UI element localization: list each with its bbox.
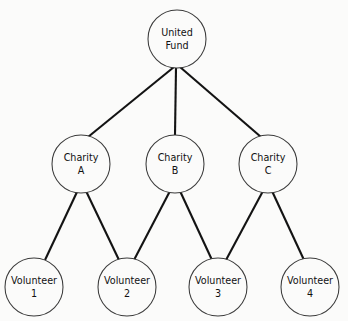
edge-charity-a-volunteer-2 xyxy=(86,191,119,260)
node-volunteer-3[interactable]: Volunteer3 xyxy=(189,258,247,316)
node-label-line1-united-fund: United xyxy=(161,27,193,38)
node-volunteer-2[interactable]: Volunteer2 xyxy=(98,258,156,316)
node-label-line2-volunteer-2: 2 xyxy=(124,288,130,299)
node-circle-united-fund xyxy=(148,10,206,68)
edge-united-fund-charity-c xyxy=(180,67,261,137)
node-label-line1-volunteer-3: Volunteer xyxy=(195,275,241,286)
node-label-line1-volunteer-2: Volunteer xyxy=(104,275,150,286)
node-volunteer-1[interactable]: Volunteer1 xyxy=(5,258,63,316)
node-label-line1-charity-a: Charity xyxy=(64,152,99,163)
node-label-line2-charity-c: C xyxy=(265,165,272,176)
node-circle-charity-c xyxy=(239,135,297,193)
node-charity-c[interactable]: CharityC xyxy=(239,135,297,193)
node-charity-a[interactable]: CharityA xyxy=(52,135,110,193)
node-united-fund[interactable]: UnitedFund xyxy=(148,10,206,68)
diagram-canvas: UnitedFundCharityACharityBCharityCVolunt… xyxy=(0,0,348,321)
node-label-line2-volunteer-1: 1 xyxy=(31,288,37,299)
node-circle-charity-b xyxy=(146,135,204,193)
node-label-line1-charity-c: Charity xyxy=(251,152,286,163)
node-label-line2-united-fund: Fund xyxy=(165,40,188,51)
node-circle-volunteer-2 xyxy=(98,258,156,316)
edge-charity-c-volunteer-3 xyxy=(226,191,263,260)
node-circle-volunteer-1 xyxy=(5,258,63,316)
edge-charity-a-volunteer-1 xyxy=(45,192,77,260)
node-circle-volunteer-4 xyxy=(281,258,339,316)
node-label-line2-volunteer-3: 3 xyxy=(215,288,221,299)
node-circle-charity-a xyxy=(52,135,110,193)
node-label-line1-charity-b: Charity xyxy=(158,152,193,163)
edge-charity-c-volunteer-4 xyxy=(272,191,304,260)
edge-charity-b-volunteer-2 xyxy=(134,191,170,260)
node-label-line2-charity-b: B xyxy=(172,165,179,176)
node-charity-b[interactable]: CharityB xyxy=(146,135,204,193)
edge-united-fund-charity-a xyxy=(88,67,174,137)
node-label-line1-volunteer-1: Volunteer xyxy=(11,275,57,286)
node-volunteer-4[interactable]: Volunteer4 xyxy=(281,258,339,316)
edge-united-fund-charity-b xyxy=(175,68,176,135)
nodes-group: UnitedFundCharityACharityBCharityCVolunt… xyxy=(5,10,339,316)
node-label-line2-volunteer-4: 4 xyxy=(307,288,313,299)
node-label-line1-volunteer-4: Volunteer xyxy=(287,275,333,286)
node-circle-volunteer-3 xyxy=(189,258,247,316)
node-label-line2-charity-a: A xyxy=(78,165,85,176)
hierarchical-tree-diagram: UnitedFundCharityACharityBCharityCVolunt… xyxy=(0,0,348,321)
edge-charity-b-volunteer-3 xyxy=(180,191,212,260)
